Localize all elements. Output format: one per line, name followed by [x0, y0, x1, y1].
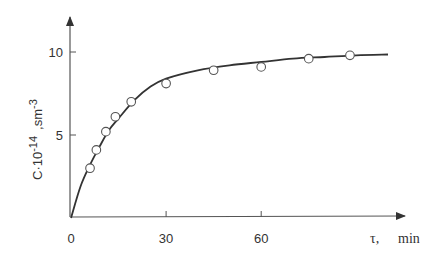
x-tick-label: 0	[67, 231, 74, 246]
x-axis	[71, 216, 405, 217]
data-point-marker	[209, 66, 218, 75]
data-point-marker	[162, 79, 171, 88]
chart-figure: 03060510 C·10-14,sm-3 τ, min	[0, 0, 445, 258]
data-point-marker	[257, 63, 266, 72]
y-tick-label: 10	[49, 45, 63, 60]
ticks: 03060510	[49, 45, 269, 246]
y-tick-label: 5	[56, 128, 63, 143]
data-point-marker	[111, 112, 120, 121]
data-point-marker	[346, 51, 355, 60]
y-axis-label: C·10-14,sm-3	[27, 99, 45, 180]
fit-line	[71, 54, 388, 218]
data-point-marker	[102, 127, 111, 136]
x-axis-label-symbol: τ,	[370, 231, 379, 246]
fit-curve	[71, 54, 388, 218]
x-axis-label-unit: min	[398, 231, 420, 246]
x-tick-label: 30	[159, 231, 173, 246]
data-point-marker	[86, 164, 95, 173]
x-tick-label: 60	[254, 231, 268, 246]
data-points	[86, 51, 355, 172]
chart-canvas: 03060510 C·10-14,sm-3 τ, min	[0, 0, 445, 258]
data-point-marker	[127, 98, 136, 107]
data-point-marker	[92, 146, 101, 155]
data-point-marker	[304, 54, 313, 63]
